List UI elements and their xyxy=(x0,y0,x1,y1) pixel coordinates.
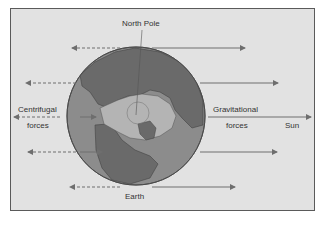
sun-label: Sun xyxy=(285,122,299,130)
earth-globe xyxy=(67,47,205,185)
gravitational-label-line2: forces xyxy=(226,122,248,130)
gravitational-label-line1: Gravitational xyxy=(213,106,258,114)
north-pole-label: North Pole xyxy=(122,20,160,28)
earth-label: Earth xyxy=(125,193,144,201)
centrifugal-label-line1: Centrifugal xyxy=(18,106,57,114)
centrifugal-label-line2: forces xyxy=(27,122,49,130)
